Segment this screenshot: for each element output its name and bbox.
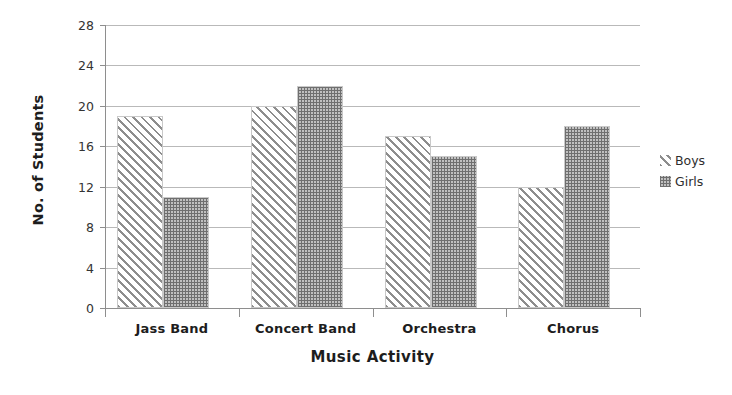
y-tick-label-16: 16 [78,139,94,154]
y-tick-label-8: 8 [86,220,94,235]
category-label-jass-band: Jass Band [136,321,209,336]
category-tick [506,308,507,317]
category-label-orchestra: Orchestra [402,321,476,336]
legend-label: Boys [675,153,705,168]
x-axis-title: Music Activity [105,348,640,366]
plot-area: 0481216202428 Jass BandConcert BandOrche… [105,25,640,308]
y-tick-label-12: 12 [78,179,94,194]
y-tick-label-24: 24 [78,58,94,73]
y-tick-label-20: 20 [78,98,94,113]
category-label-chorus: Chorus [547,321,599,336]
category-tick [239,308,240,317]
legend-entry-boys[interactable]: Boys [660,150,732,171]
y-tick-label-4: 4 [86,260,94,275]
y-tick-label-28: 28 [78,18,94,33]
y-tick-label-0: 0 [86,301,94,316]
bar-chart: No. of Students 0481216202428 Jass BandC… [0,0,732,395]
category-tick [640,308,641,317]
category-label-concert-band: Concert Band [255,321,356,336]
diagonal-hatch-swatch [660,155,671,166]
category-tick [105,308,106,317]
legend: BoysGirls [660,150,732,192]
y-axis-title: No. of Students [30,60,46,260]
category-tick [373,308,374,317]
dotted-fill-swatch [660,176,671,187]
legend-label: Girls [675,174,703,189]
category-axis: Jass BandConcert BandOrchestraChorus [105,25,640,308]
legend-entry-girls[interactable]: Girls [660,171,732,192]
